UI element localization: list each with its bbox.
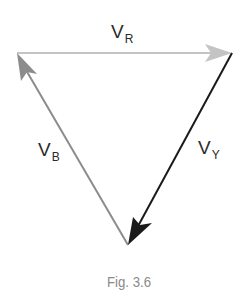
label-v-y: VY [198, 138, 220, 157]
label-v-b-symbol: V [38, 139, 51, 160]
label-v-y-subscript: Y [212, 148, 220, 162]
label-v-r-subscript: R [125, 32, 134, 46]
label-v-y-symbol: V [198, 137, 211, 158]
vector-v-b [17, 53, 128, 245]
figure-caption: Fig. 3.6 [15, 274, 242, 289]
vector-v-b-arrowhead-icon [17, 53, 37, 81]
label-v-r-symbol: V [111, 21, 124, 42]
label-v-r: VR [111, 22, 133, 41]
label-v-b: VB [38, 140, 60, 159]
vector-v-r [17, 44, 232, 62]
phasor-triangle-figure: VR VB VY Fig. 3.6 [0, 0, 242, 299]
label-v-b-subscript: B [52, 150, 60, 164]
